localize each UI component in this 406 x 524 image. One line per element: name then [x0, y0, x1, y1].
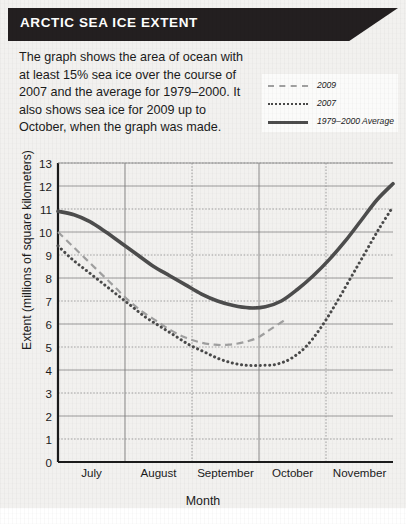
dashed-line-icon [268, 80, 308, 91]
series-line [58, 232, 286, 345]
dotted-line-icon [268, 98, 308, 109]
page-title: ARCTIC SEA ICE EXTENT [20, 15, 198, 30]
legend-item-2007: 2007 [268, 96, 336, 110]
poster-page: ARCTIC SEA ICE EXTENT The graph shows th… [0, 0, 406, 524]
intro-paragraph: The graph shows the area of ocean with a… [19, 49, 257, 137]
legend-item-average: 1979–2000 Average [268, 114, 394, 128]
legend-label: 2007 [317, 98, 336, 108]
legend-label: 1979–2000 Average [317, 116, 394, 126]
solid-line-icon [268, 116, 308, 127]
legend-label: 2009 [317, 80, 336, 90]
legend-item-2009: 2009 [268, 78, 336, 92]
series-line [58, 207, 393, 366]
chart-legend: 2009 2007 1979–2000 Average [262, 74, 398, 132]
